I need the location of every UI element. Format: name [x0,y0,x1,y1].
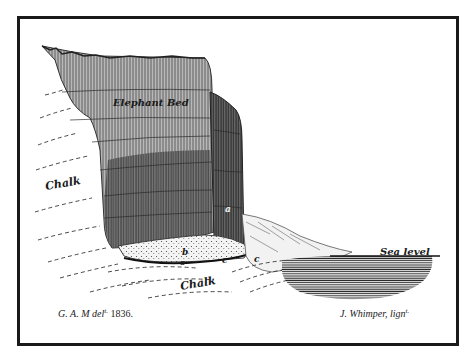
sea [282,256,433,299]
caption-artist-name: G. A. M del [58,308,104,319]
label-a: a [225,205,231,214]
caption-artist: G. A. M delt. 1836. [58,308,133,319]
caption-engraver-super: t. [406,307,410,315]
label-c-right: c [254,255,259,264]
label-c-left: c [222,256,227,265]
label-sea-level: Sea level [380,247,430,257]
label-o: o [180,258,185,266]
caption-engraver-name: J. Whimper, lign [340,308,406,319]
label-b: b [182,248,188,257]
label-elephant-bed: Elephant Bed [113,98,189,108]
cliff-side-face [210,92,244,244]
caption-engraver: J. Whimper, lignt. [340,308,409,319]
caption-year: 1836. [110,308,133,319]
caption-artist-super: t. [104,307,108,315]
